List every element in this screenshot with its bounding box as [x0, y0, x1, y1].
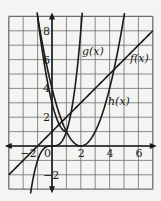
y-tick-label: −2	[43, 169, 59, 182]
y-tick-label: 2	[43, 111, 50, 124]
label-g: g(x)	[82, 45, 104, 58]
function-graph: −202468642−2 g(x) f(x) h(x)	[0, 0, 161, 201]
label-f: f(x)	[129, 52, 149, 65]
x-tick-label: 6	[135, 147, 142, 160]
y-tick-label: 6	[43, 54, 50, 67]
x-tick-label: −2	[20, 147, 36, 160]
x-tick-label: 0	[44, 147, 51, 160]
y-tick-label: 8	[43, 25, 50, 38]
y-tick-label: 4	[43, 82, 50, 95]
label-h: h(x)	[108, 95, 130, 108]
x-tick-label: 2	[78, 147, 85, 160]
x-tick-label: 4	[107, 147, 114, 160]
